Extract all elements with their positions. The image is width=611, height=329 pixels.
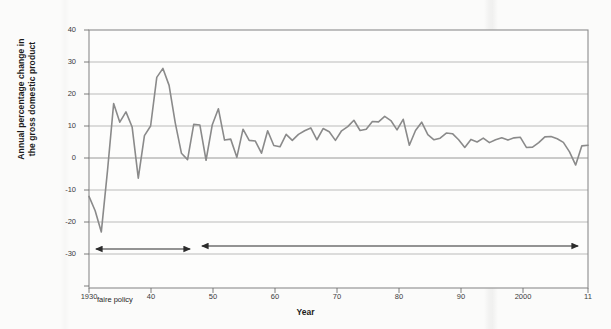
y-axis-ticks xyxy=(84,30,89,286)
x-axis-ticks xyxy=(89,288,588,293)
chart-page: Annual percentage change in the gross do… xyxy=(0,0,611,329)
chart-svg xyxy=(0,0,611,329)
